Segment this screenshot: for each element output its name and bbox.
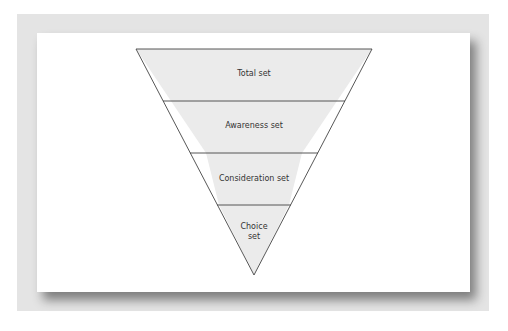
label-choice: Choice (240, 222, 267, 232)
label-consideration-set: Consideration set (219, 174, 289, 184)
label-total-set: Total set (237, 69, 270, 79)
label-choice-set: set (248, 232, 260, 242)
label-awareness-set: Awareness set (225, 121, 283, 131)
funnel-diagram (0, 0, 508, 331)
